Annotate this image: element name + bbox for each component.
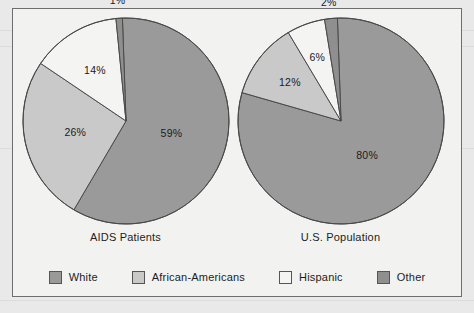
pie-slice-label-other: 1% (110, 0, 126, 6)
legend-label-hispanic: Hispanic (299, 271, 343, 283)
legend-item-hispanic: Hispanic (279, 271, 343, 284)
legend-label-white: White (69, 271, 98, 283)
legend: White African-Americans Hispanic Other (13, 266, 461, 288)
pie-slice-label-hispanic: 14% (84, 64, 106, 76)
legend-item-white: White (49, 271, 98, 284)
pie-chart-us-population: 80% 12% 6% 2% U.S. Population (228, 9, 453, 249)
pie-caption-aids-patients: AIDS Patients (13, 231, 238, 243)
pie-slice-label-african-americans: 12% (279, 76, 301, 88)
legend-label-african-americans: African-Americans (152, 271, 245, 283)
pie-aids-patients-svg (18, 13, 234, 229)
pie-slice-label-other: 2% (321, 0, 337, 8)
legend-item-african-americans: African-Americans (132, 271, 245, 284)
pie-us-population-svg (233, 13, 449, 229)
pie-chart-aids-patients: 59% 26% 14% 1% AIDS Patients (13, 9, 238, 249)
legend-swatch-hispanic (279, 271, 292, 284)
pie-slice-label-white: 80% (356, 149, 378, 161)
legend-swatch-other (377, 271, 390, 284)
pie-slice-label-white: 59% (161, 127, 183, 139)
legend-swatch-african-americans (132, 271, 145, 284)
pie-slice-label-hispanic: 6% (309, 51, 325, 63)
charts-row: 59% 26% 14% 1% AIDS Patients 80% 12% 6% … (13, 9, 461, 249)
figure-panel: 59% 26% 14% 1% AIDS Patients 80% 12% 6% … (12, 8, 462, 297)
legend-label-other: Other (397, 271, 426, 283)
pie-slice-label-african-americans: 26% (64, 126, 86, 138)
legend-swatch-white (49, 271, 62, 284)
pie-caption-us-population: U.S. Population (228, 231, 453, 243)
legend-item-other: Other (377, 271, 426, 284)
